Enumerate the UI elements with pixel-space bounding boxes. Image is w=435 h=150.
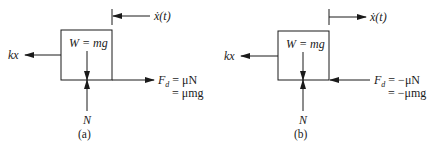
weight-label: W = mg xyxy=(286,37,325,51)
velocity-label: ẋ(t) xyxy=(153,9,171,23)
caption-a: (a) xyxy=(78,128,91,141)
spring-force-label: kx xyxy=(8,48,19,62)
friction-label-line2: = μmg xyxy=(172,86,204,100)
panel-a: ẋ(t) kx W = mg N Fd = μN = μmg (a) xyxy=(8,9,204,141)
friction-label-line2: = −μmg xyxy=(388,86,426,100)
caption-b: (b) xyxy=(294,128,308,141)
panel-b: ẋ(t) kx W = mg N Fd = −μN = −μmg (b) xyxy=(224,9,426,141)
free-body-diagrams: ẋ(t) kx W = mg N Fd = μN = μmg (a) ẋ(t) … xyxy=(0,0,435,150)
normal-force-label: N xyxy=(298,113,308,127)
spring-force-label: kx xyxy=(224,49,235,63)
normal-force-label: N xyxy=(82,113,92,127)
velocity-label: ẋ(t) xyxy=(369,10,387,24)
weight-label: W = mg xyxy=(69,36,108,50)
